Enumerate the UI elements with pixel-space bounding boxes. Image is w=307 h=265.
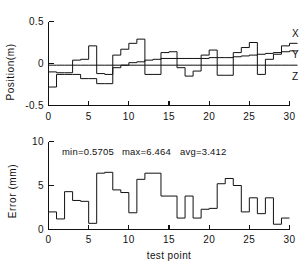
figure-container: Position(m) 0.5 0 -0.5 0 5 10 15 20 (0, 0, 307, 265)
position-series-label-x: X (292, 28, 299, 39)
position-xtick-label-6: 30 (284, 111, 296, 122)
error-xtick-label-0: 0 (46, 234, 52, 245)
position-xtick-label-0: 0 (46, 111, 52, 122)
error-ytick-label-0: 0 (38, 224, 44, 235)
position-axes (49, 22, 290, 106)
position-xtick-label-2: 10 (123, 111, 135, 122)
position-ytick-label-0: 0.5 (29, 16, 44, 27)
position-chart-panel: Position(m) 0.5 0 -0.5 0 5 10 15 20 (0, 0, 307, 133)
error-xtick-label-3: 15 (163, 234, 175, 245)
error-xtick-label-5: 25 (243, 234, 255, 245)
error-xtick-label-4: 20 (203, 234, 215, 245)
error-stat-min: min=0.5705 (62, 146, 114, 157)
position-xtick-label-1: 5 (86, 111, 92, 122)
error-x-axis-title: test point (147, 250, 192, 261)
position-xtick-label-5: 25 (243, 111, 255, 122)
error-xtick-label-1: 5 (86, 234, 92, 245)
error-series-line (49, 172, 290, 224)
error-ytick-label-1: 5 (38, 180, 44, 191)
error-xtick-label-2: 10 (123, 234, 135, 245)
error-y-axis-title: Error (mm) (7, 164, 18, 218)
position-series-label-y: Y (292, 49, 299, 60)
error-stat-avg: avg=3.412 (180, 146, 226, 157)
position-ytick-label-2: -0.5 (25, 100, 44, 111)
position-series-x (49, 39, 298, 76)
error-chart-svg: Error (mm) 10 5 0 0 5 10 15 20 (0, 133, 307, 265)
position-chart-svg: Position(m) 0.5 0 -0.5 0 5 10 15 20 (0, 0, 307, 133)
position-ytick-label-1: 0 (38, 58, 44, 69)
position-y-axis-title: Position(m) (5, 43, 16, 100)
position-series-y (49, 51, 298, 87)
error-ytick-label-2: 10 (32, 136, 44, 147)
error-stat-max: max=6.464 (122, 146, 171, 157)
error-xtick-label-6: 30 (284, 234, 296, 245)
position-xtick-label-3: 15 (163, 111, 175, 122)
position-series-label-z: Z (292, 71, 298, 82)
position-xtick-label-4: 20 (203, 111, 215, 122)
error-chart-panel: Error (mm) 10 5 0 0 5 10 15 20 (0, 133, 307, 265)
